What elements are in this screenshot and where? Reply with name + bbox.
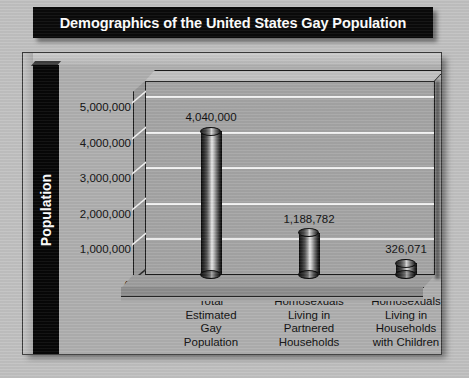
y-axis-tick-label: 5,000,000 [59,101,131,113]
y-axis-tick-label: 4,000,000 [59,137,131,149]
bar-value-label: 1,188,782 [254,213,364,225]
bar[interactable] [299,233,320,275]
gridline [146,96,434,98]
plot-floor-front-lower [121,297,423,301]
bar-body [299,233,320,275]
gridline [146,167,434,169]
chart-frame: Population 5,000,0004,000,0003,000,0002,… [22,52,442,355]
bar-value-label: 326,071 [351,243,442,255]
bar-body [201,131,222,275]
plot-wall-top-bevel [145,70,442,81]
y-axis-title-band: Population [33,65,59,354]
y-axis-tick-label: 1,000,000 [59,243,131,255]
y-axis-tick-label: 2,000,000 [59,208,131,220]
y-axis-title: Population [38,173,54,245]
chart-title: Demographics of the United States Gay Po… [60,15,406,31]
bar-top-ellipse [395,259,416,268]
y-axis-tick-label: 3,000,000 [59,172,131,184]
gridline [146,238,434,240]
bar-value-label: 4,040,000 [156,111,266,123]
y-axis-tick-labels: 5,000,0004,000,0003,000,0002,000,0001,00… [59,65,131,354]
plot-floor-front [121,287,423,297]
frame-bevel-left [23,53,33,354]
chart-title-bar: Demographics of the United States Gay Po… [33,7,433,38]
plot-area: 5,000,0004,000,0003,000,0002,000,0001,00… [59,65,441,354]
bar-top-ellipse [200,127,221,136]
bar-top-ellipse [298,228,319,237]
gridline [146,203,434,205]
plot-wall-left-face [133,81,145,286]
bar[interactable] [201,131,222,275]
gridline [146,132,434,134]
frame-bevel-top [23,53,441,65]
bar[interactable] [396,263,417,275]
